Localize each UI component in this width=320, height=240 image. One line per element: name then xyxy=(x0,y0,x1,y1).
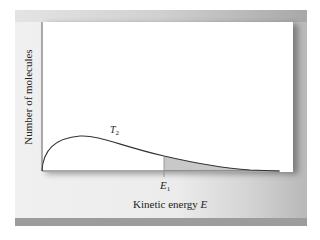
y-axis-label: Number of molecules xyxy=(22,49,34,144)
distribution-curve-t2 xyxy=(42,136,279,171)
shaded-region xyxy=(164,156,278,171)
curve-label-t2: T2 xyxy=(110,124,119,137)
x-tick-label-e1: E1 xyxy=(160,179,170,193)
x-axis-label: Kinetic energy E xyxy=(133,198,207,210)
